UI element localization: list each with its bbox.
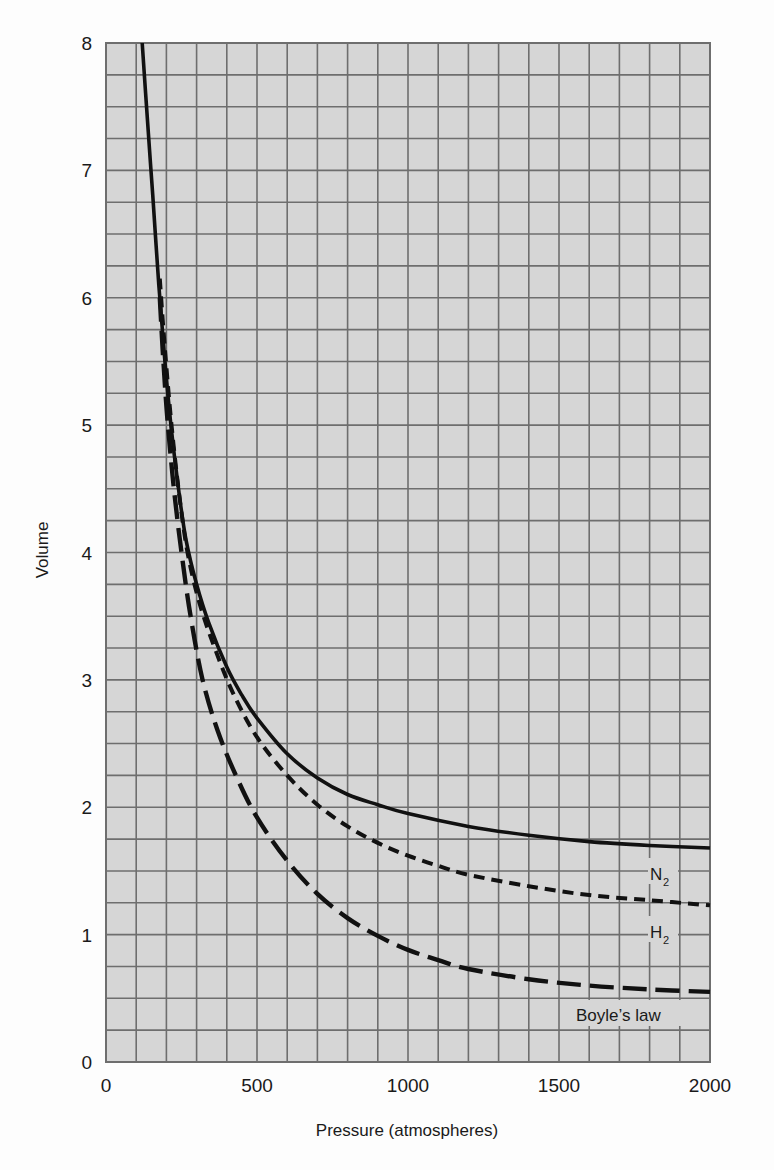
- y-tick-label: 4: [81, 543, 92, 564]
- y-tick-label: 8: [81, 33, 92, 54]
- x-tick-label: 500: [241, 1075, 273, 1096]
- grid-lines: [106, 43, 710, 1062]
- label-boyle: Boyle’s law: [574, 1000, 688, 1026]
- label-boyle-text: Boyle’s law: [576, 1006, 661, 1025]
- x-tick-label: 1500: [538, 1075, 580, 1096]
- y-tick-label: 7: [81, 160, 92, 181]
- y-tick-label: 6: [81, 288, 92, 309]
- x-tick-label: 1000: [387, 1075, 429, 1096]
- y-axis-title: Volume: [33, 522, 52, 579]
- y-tick-label: 3: [81, 670, 92, 691]
- x-axis-title: Pressure (atmospheres): [316, 1121, 498, 1140]
- y-tick-label: 2: [81, 797, 92, 818]
- x-tick-labels: 0500100015002000: [101, 1075, 731, 1096]
- y-tick-labels: 012345678: [81, 33, 92, 1073]
- y-tick-label: 5: [81, 415, 92, 436]
- label-h2-main: H: [650, 923, 662, 942]
- label-h2-sub: 2: [663, 934, 669, 946]
- y-tick-label: 0: [81, 1052, 92, 1073]
- x-tick-label: 0: [101, 1075, 112, 1096]
- chart: 012345678 0500100015002000 N 2 H 2 Boyle…: [0, 0, 774, 1170]
- label-n2: N 2: [648, 858, 678, 888]
- label-n2-sub: 2: [663, 876, 669, 888]
- label-n2-main: N: [650, 865, 662, 884]
- label-h2: H 2: [648, 916, 678, 946]
- y-tick-label: 1: [81, 925, 92, 946]
- x-tick-label: 2000: [689, 1075, 731, 1096]
